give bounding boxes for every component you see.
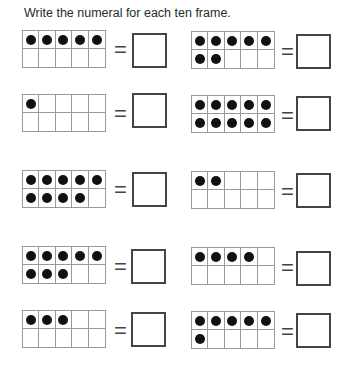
counter-dot-icon [211, 252, 221, 262]
counter-dot-icon [75, 193, 85, 203]
ten-frame-cell [89, 171, 105, 189]
ten-frame-cell [208, 50, 224, 68]
answer-box[interactable] [296, 251, 331, 286]
answer-box[interactable] [296, 173, 331, 208]
equals-sign: = [114, 179, 127, 201]
counter-dot-icon [26, 99, 36, 109]
counter-dot-icon [211, 118, 221, 128]
ten-frame-cell [258, 190, 274, 208]
ten-frame-cell [23, 311, 39, 329]
ten-frame-cell [89, 189, 105, 207]
ten-frame-cell [72, 265, 88, 283]
ten-frame-cell [208, 114, 224, 132]
counter-dot-icon [42, 35, 52, 45]
ten-frame-cell [23, 265, 39, 283]
counter-dot-icon [42, 251, 52, 261]
ten-frame-cell [39, 31, 55, 49]
counter-dot-icon [26, 193, 36, 203]
counter-dot-icon [195, 100, 205, 110]
ten-frame-cell [192, 96, 208, 114]
counter-dot-icon [211, 54, 221, 64]
ten-frame-cell [72, 247, 88, 265]
ten-frame-cell [208, 96, 224, 114]
ten-frame-cell [89, 265, 105, 283]
answer-box[interactable] [296, 34, 331, 69]
counter-dot-icon [26, 35, 36, 45]
ten-frame-cell [89, 247, 105, 265]
counter-dot-icon [75, 175, 85, 185]
ten-frame-cell [241, 266, 257, 284]
ten-frame-cell [192, 266, 208, 284]
counter-dot-icon [244, 252, 254, 262]
counter-dot-icon [227, 316, 237, 326]
instruction-text: Write the numeral for each ten frame. [24, 6, 231, 20]
ten-frame-cell [208, 266, 224, 284]
ten-frame-cell [23, 49, 39, 67]
ten-frame [191, 247, 275, 285]
ten-frame-cell [225, 248, 241, 266]
ten-frame-cell [56, 265, 72, 283]
ten-frame-cell [208, 312, 224, 330]
counter-dot-icon [195, 118, 205, 128]
counter-dot-icon [42, 315, 52, 325]
ten-frame-cell [89, 311, 105, 329]
answer-box[interactable] [131, 312, 166, 347]
ten-frame-cell [208, 190, 224, 208]
equals-sign: = [114, 39, 127, 61]
answer-box[interactable] [132, 33, 167, 68]
ten-frame-cell [23, 329, 39, 347]
counter-dot-icon [26, 269, 36, 279]
equals-sign: = [281, 181, 294, 203]
ten-frame-cell [39, 171, 55, 189]
ten-frame-cell [241, 96, 257, 114]
ten-frame-cell [56, 329, 72, 347]
ten-frame-cell [258, 114, 274, 132]
ten-frame-cell [208, 172, 224, 190]
ten-frame-cell [192, 114, 208, 132]
ten-frame [22, 94, 106, 132]
ten-frame-cell [192, 172, 208, 190]
counter-dot-icon [42, 175, 52, 185]
ten-frame-cell [89, 49, 105, 67]
ten-frame-cell [89, 329, 105, 347]
counter-dot-icon [227, 252, 237, 262]
equals-sign: = [114, 103, 127, 125]
ten-frame-cell [241, 330, 257, 348]
answer-box[interactable] [296, 96, 331, 131]
ten-frame-cell [258, 172, 274, 190]
ten-frame-cell [192, 50, 208, 68]
equals-sign: = [281, 41, 294, 63]
counter-dot-icon [92, 175, 102, 185]
ten-frame [191, 31, 275, 69]
ten-frame-cell [258, 32, 274, 50]
answer-box[interactable] [296, 313, 331, 348]
counter-dot-icon [195, 36, 205, 46]
answer-box[interactable] [131, 249, 166, 284]
ten-frame-cell [39, 265, 55, 283]
ten-frame-cell [241, 312, 257, 330]
ten-frame-cell [192, 248, 208, 266]
counter-dot-icon [92, 35, 102, 45]
ten-frame-cell [72, 31, 88, 49]
answer-box[interactable] [132, 172, 167, 207]
ten-frame-cell [72, 189, 88, 207]
counter-dot-icon [75, 35, 85, 45]
counter-dot-icon [211, 176, 221, 186]
counter-dot-icon [195, 54, 205, 64]
ten-frame-cell [225, 266, 241, 284]
counter-dot-icon [244, 36, 254, 46]
ten-frame-cell [225, 50, 241, 68]
ten-frame-cell [241, 32, 257, 50]
ten-frame-cell [56, 49, 72, 67]
counter-dot-icon [58, 269, 68, 279]
counter-dot-icon [195, 252, 205, 262]
ten-frame-cell [192, 190, 208, 208]
ten-frame-cell [208, 330, 224, 348]
ten-frame-cell [89, 95, 105, 113]
ten-frame-cell [192, 32, 208, 50]
counter-dot-icon [227, 100, 237, 110]
counter-dot-icon [261, 100, 271, 110]
counter-dot-icon [261, 316, 271, 326]
ten-frame-cell [89, 31, 105, 49]
answer-box[interactable] [132, 93, 167, 128]
